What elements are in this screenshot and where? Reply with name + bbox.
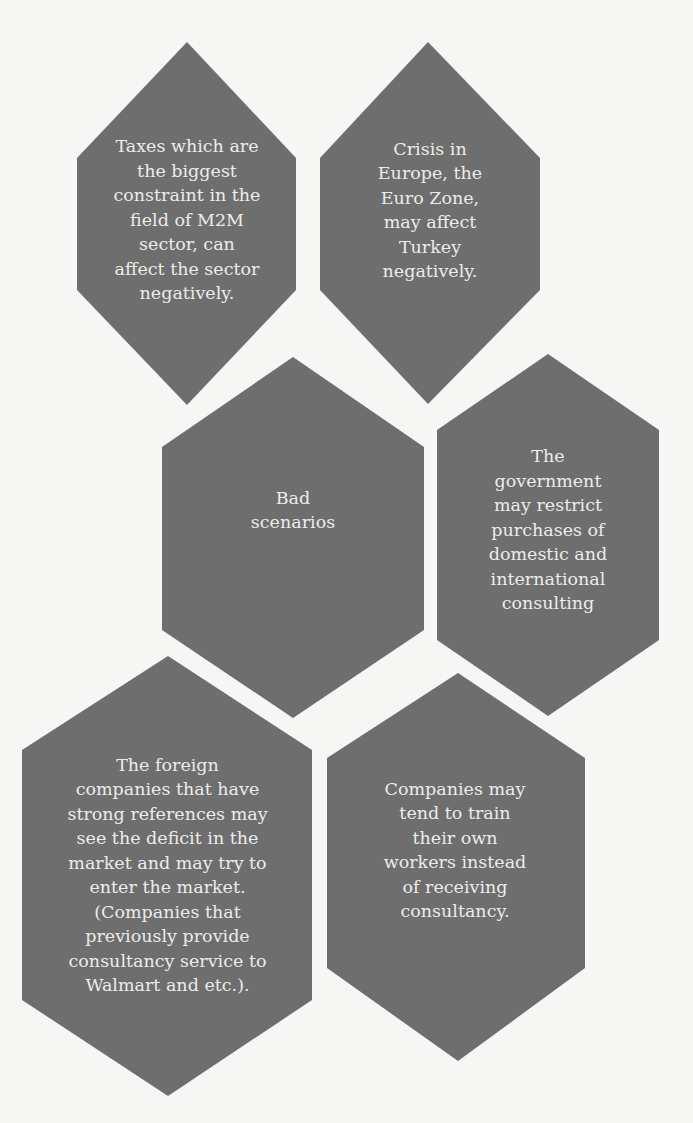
node-taxes-text: Taxes which are the biggest constraint i…	[87, 120, 287, 320]
center-bad-scenarios-text: Bad scenarios	[193, 440, 393, 580]
node-crisis-europe-text: Crisis in Europe, the Euro Zone, may aff…	[330, 110, 530, 310]
node-foreign-companies-text: The foreign companies that have strong r…	[35, 740, 300, 1010]
node-government-restrict-text: The government may restrict purchases of…	[448, 430, 648, 630]
node-train-own-workers-text: Companies may tend to train their own wo…	[355, 760, 555, 940]
